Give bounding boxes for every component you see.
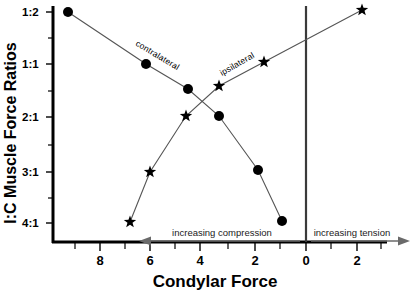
- chart-canvas: I:C Muscle Force Ratios Condylar Force 1…: [0, 0, 413, 291]
- compression-arrow-head: [139, 237, 151, 246]
- annotation-ipsilateral: ipsilateral: [218, 50, 256, 78]
- y-tick-label: 1:1: [22, 58, 39, 70]
- data-point-marker: [277, 216, 287, 226]
- data-point-marker: [258, 55, 270, 67]
- series-ipsilateral-line: [130, 10, 362, 222]
- chart-figure: I:C Muscle Force Ratios Condylar Force 1…: [0, 0, 413, 291]
- data-point-marker: [356, 3, 368, 15]
- data-point-marker: [214, 111, 224, 121]
- x-tick-label: 2: [353, 253, 360, 268]
- y-tick-label: 3:1: [22, 166, 39, 178]
- x-axis-title: Condylar Force: [153, 272, 278, 291]
- direction-label-tension: increasing tension: [314, 227, 391, 238]
- y-axis-title: I:C Muscle Force Ratios: [2, 42, 19, 223]
- data-point-marker: [183, 84, 193, 94]
- data-point-marker: [180, 109, 192, 121]
- x-tick-label: 4: [196, 253, 204, 268]
- x-axis-ticks: 8 6 4 2 0 2: [75, 242, 381, 268]
- x-tick-label: 2: [251, 253, 258, 268]
- y-axis-ticks: 1:2 1:1 2:1 3:1 4:1: [22, 6, 53, 229]
- annotation-contralateral: contralateral: [134, 38, 181, 72]
- y-axis-title-text: I:C Muscle Force Ratios: [2, 42, 19, 223]
- data-point-marker: [63, 7, 73, 17]
- series-ipsilateral: [124, 3, 368, 227]
- data-point-marker: [253, 165, 263, 175]
- tension-arrow-head: [398, 237, 410, 246]
- x-axis-title-text: Condylar Force: [153, 272, 278, 291]
- data-point-marker: [141, 59, 151, 69]
- y-tick-label: 4:1: [22, 217, 39, 229]
- x-tick-label: 6: [146, 253, 153, 268]
- x-tick-label: 0: [302, 253, 309, 268]
- y-tick-label: 1:2: [22, 6, 39, 18]
- data-point-marker: [144, 165, 156, 177]
- direction-label-compression: increasing compression: [172, 227, 272, 238]
- data-point-marker: [124, 215, 136, 227]
- y-tick-label: 2:1: [22, 111, 39, 123]
- series-contralateral-line: [68, 12, 282, 221]
- x-tick-label: 8: [96, 253, 103, 268]
- series-contralateral: [63, 7, 287, 226]
